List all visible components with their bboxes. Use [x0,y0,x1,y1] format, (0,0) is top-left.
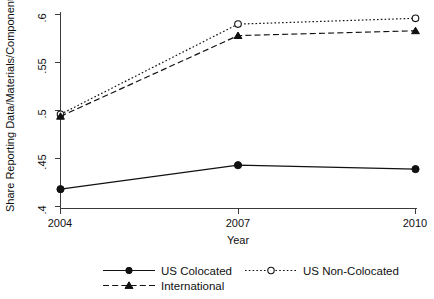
legend-marker-hollow-circle [268,267,274,273]
series-layer [57,15,420,193]
y-axis-title: Share Reporting Data/Materials/Component… [4,0,16,212]
x-tick-label-2007: 2007 [226,217,250,229]
y-tick-label-3: .55 [36,58,48,73]
data-point [57,186,64,193]
series-line-2 [61,31,416,117]
y-tick-label-0: .4 [36,205,48,214]
data-point [412,15,419,22]
legend-item-us-colocated[interactable]: US Colocated [103,265,232,277]
series-international [57,27,420,119]
series-us-non-colocated [57,15,419,118]
y-tick-label-4: .6 [36,13,48,22]
y-tick-label-1: .45 [36,154,48,169]
chart-legend: US Colocated US Non-Colocated Internatio… [103,265,399,292]
data-point [235,21,242,28]
data-point [412,166,419,173]
data-point [234,162,241,169]
legend-label-us-colocated: US Colocated [161,265,232,277]
legend-item-us-non-colocated[interactable]: US Non-Colocated [245,265,399,277]
line-chart: Share Reporting Data/Materials/Component… [0,0,434,299]
legend-item-international[interactable]: International [103,280,224,292]
x-tick-label-2010: 2010 [403,217,427,229]
legend-marker-filled-circle [126,267,132,273]
chart-figure: Share Reporting Data/Materials/Component… [0,0,434,299]
legend-label-international: International [161,280,224,292]
x-axis-title: Year [227,234,250,246]
legend-label-us-non-colocated: US Non-Colocated [303,265,399,277]
x-tick-label-2004: 2004 [48,217,72,229]
series-us-colocated [57,162,419,193]
y-tick-label-2: .5 [36,109,48,118]
